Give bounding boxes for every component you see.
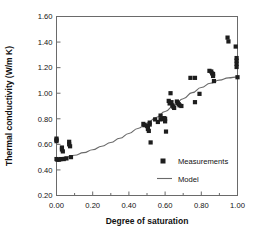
data-point-marker xyxy=(149,140,153,144)
y-axis-ticks xyxy=(57,17,61,196)
y-axis-title: Thermal conductivity (W/m K) xyxy=(4,46,14,166)
legend-model-label: Model xyxy=(178,175,199,184)
data-point-marker xyxy=(148,122,152,126)
x-axis-title: Degree of saturation xyxy=(106,216,189,226)
y-tick-label: 0.60 xyxy=(38,140,53,149)
x-tick-label: 0.80 xyxy=(194,201,209,210)
chart-legend: Measurements Model xyxy=(157,157,228,184)
data-point-marker xyxy=(69,155,73,159)
data-point-marker xyxy=(179,104,183,108)
x-tick-label: 0.20 xyxy=(85,201,100,210)
measurement-data-points xyxy=(54,36,239,162)
y-tick-label: 1.20 xyxy=(38,63,53,72)
y-axis-tick-labels: 0.200.400.600.801.001.201.401.60 xyxy=(38,12,53,200)
y-tick-label: 1.40 xyxy=(38,38,53,47)
chart-figure: 0.200.400.600.801.001.201.401.60 0.000.2… xyxy=(0,0,263,241)
x-tick-label: 0.40 xyxy=(122,201,137,210)
data-point-marker xyxy=(225,36,229,40)
model-curve-line xyxy=(57,77,238,159)
data-point-marker xyxy=(61,149,65,153)
y-tick-label: 1.60 xyxy=(38,12,53,21)
data-point-marker xyxy=(235,65,239,69)
data-point-marker xyxy=(163,119,167,123)
data-point-marker xyxy=(235,75,239,79)
data-point-marker xyxy=(147,129,151,133)
data-point-marker xyxy=(168,91,172,95)
y-tick-label: 0.80 xyxy=(38,115,53,124)
data-point-marker xyxy=(193,100,197,104)
plot-frame xyxy=(57,17,238,196)
data-point-marker xyxy=(188,76,192,80)
data-point-marker xyxy=(193,76,197,80)
data-point-marker xyxy=(172,106,176,110)
data-point-marker xyxy=(54,139,58,143)
data-point-marker xyxy=(164,129,168,133)
x-tick-label: 0.60 xyxy=(158,201,173,210)
legend-measurements-label: Measurements xyxy=(178,157,228,166)
y-tick-label: 0.20 xyxy=(38,191,53,200)
scatter-chart: 0.200.400.600.801.001.201.401.60 0.000.2… xyxy=(0,0,263,241)
y-tick-label: 1.00 xyxy=(38,89,53,98)
data-point-marker xyxy=(212,79,216,83)
data-point-marker xyxy=(197,92,201,96)
x-axis-tick-labels: 0.000.200.400.600.801.00 xyxy=(49,201,245,210)
x-tick-label: 1.00 xyxy=(230,201,245,210)
legend-measurements-marker-icon xyxy=(161,159,166,164)
data-point-marker xyxy=(234,44,238,48)
data-point-marker xyxy=(64,156,68,160)
data-point-marker xyxy=(211,74,215,78)
data-point-marker xyxy=(226,39,230,43)
data-point-marker xyxy=(68,144,72,148)
y-tick-label: 0.40 xyxy=(38,166,53,175)
x-tick-label: 0.00 xyxy=(49,201,64,210)
